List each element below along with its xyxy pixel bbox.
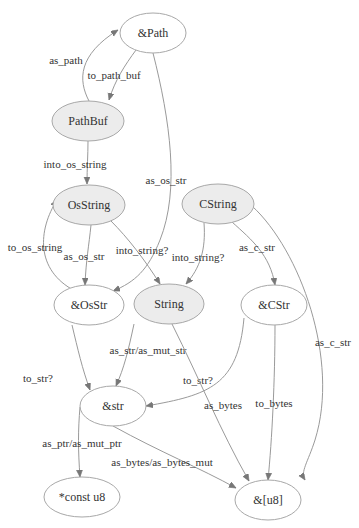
node-label: &[u8] [253,493,282,507]
edge-label: as_str/as_mut_str [110,344,187,356]
edge-label: to_str? [183,374,213,386]
node-str-ref: &str [80,386,146,426]
edge-label: into_os_string [44,158,107,170]
edges-layer: to_path_bufas_pathinto_os_stringas_os_st… [8,30,352,488]
edge-label: as_os_str [64,250,105,262]
edge-label: to_str? [23,372,53,384]
node-label: String [154,297,183,311]
node-label: *const u8 [59,490,105,504]
edge-label: into_string? [116,244,169,256]
edge-cstring-to-cstr_ref: as_c_str [232,222,275,285]
node-pathbuf: PathBuf [52,101,124,141]
edge-label: as_os_str [146,174,187,186]
edge-osstring-to-osstr_ref: as_os_str [64,225,105,285]
edge-label: as_ptr/as_mut_ptr [42,437,122,449]
node-label: OsString [68,198,111,212]
edge-cstr_ref-to-u8_slice: to_bytes [255,325,292,480]
edge-label: as_path [49,54,83,66]
node-cstr-ref: &CStr [241,285,307,325]
node-path-ref: &Path [120,13,186,53]
edge-cstr_ref-to-str_ref: to_str? [146,318,244,406]
edge-label: as_c_str [315,336,351,348]
node-osstring: OsString [53,185,125,225]
edge-label: as_c_str [239,241,275,253]
edge-label: to_bytes [255,397,292,409]
edge-pathbuf-to-osstring: into_os_string [44,141,107,184]
node-label: &OsStr [71,298,108,312]
node-cstring: CString [182,184,254,224]
node-string: String [134,284,204,324]
edge-label: to_os_string [8,241,63,253]
edge-label: as_bytes [204,399,242,411]
node-osstr-ref: &OsStr [54,285,124,325]
conversion-graph: to_path_bufas_pathinto_os_stringas_os_st… [0,0,359,528]
edge-line [72,325,90,390]
edge-label: into_string? [172,251,225,263]
node-const-u8: *const u8 [44,477,120,517]
node-label: &CStr [258,298,289,312]
edge-label: to_path_buf [87,69,140,81]
node-label: &str [102,399,123,413]
edge-cstring-to-string: into_string? [172,223,225,284]
node-u8-slice: &[u8] [235,480,301,520]
edge-pathbuf-to-path_ref: as_path [49,30,118,101]
edge-line [232,222,275,285]
node-label: CString [199,197,236,211]
edge-line [146,318,244,406]
node-label: PathBuf [68,114,107,128]
edge-str_ref-to-u8_slice: as_bytes/as_bytes_mut [111,426,236,488]
edge-label: as_bytes/as_bytes_mut [111,456,212,468]
edge-osstr_ref-to-str_ref: to_str? [23,325,90,390]
node-label: &Path [138,26,169,40]
edge-string-to-str_ref: as_str/as_mut_str [110,324,187,386]
edge-path_ref-to-pathbuf: to_path_buf [87,50,140,100]
